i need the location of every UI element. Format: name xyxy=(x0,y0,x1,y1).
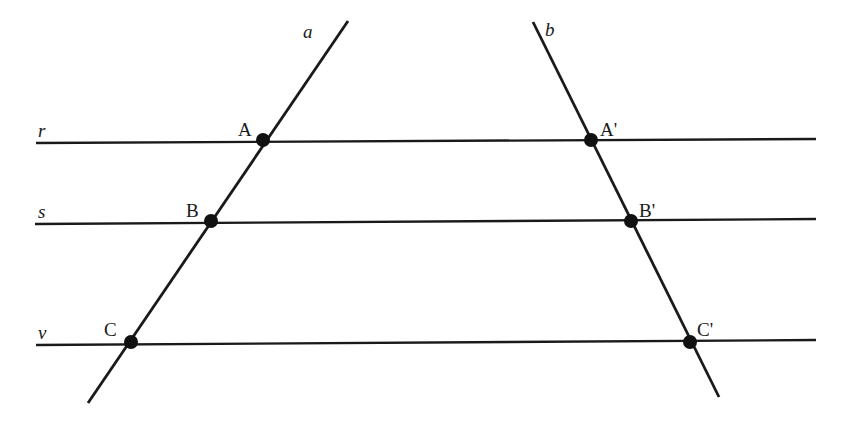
geometry-diagram: rsvabABCA'B'C' xyxy=(0,0,847,421)
line-r xyxy=(36,139,816,143)
point-label-B: B xyxy=(186,201,199,220)
line-v xyxy=(36,340,816,345)
line-label-v: v xyxy=(38,323,46,342)
points-group xyxy=(124,133,697,349)
point-label-A-prime: A' xyxy=(600,120,617,139)
lines-group xyxy=(35,21,816,403)
line-label-s: s xyxy=(38,202,45,221)
point-label-C-prime: C' xyxy=(697,320,713,339)
point-B-prime xyxy=(624,214,638,228)
point-A-prime xyxy=(584,133,598,147)
point-C xyxy=(124,335,138,349)
point-label-C: C xyxy=(104,320,117,339)
line-label-a: a xyxy=(303,22,313,41)
point-label-A: A xyxy=(238,120,252,139)
line-label-r: r xyxy=(38,121,45,140)
line-s xyxy=(35,219,816,224)
point-label-B-prime: B' xyxy=(639,201,655,220)
line-label-b: b xyxy=(545,20,555,39)
point-A xyxy=(256,133,270,147)
point-B xyxy=(204,214,218,228)
point-C-prime xyxy=(683,335,697,349)
geometry-canvas xyxy=(0,0,847,421)
